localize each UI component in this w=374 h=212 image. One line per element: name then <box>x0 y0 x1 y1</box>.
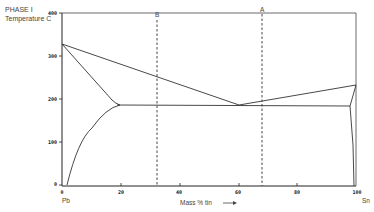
solvus-sn-side <box>350 106 354 186</box>
x-tick-20: 20 <box>118 189 124 195</box>
label-b: B <box>155 11 159 18</box>
label-a: A <box>260 6 265 13</box>
eutectic-line <box>117 105 350 106</box>
y-ticks: 400 300 200 100 0 <box>48 10 62 187</box>
pb-label: Pb <box>62 197 70 204</box>
x-tick-100: 100 <box>352 189 361 195</box>
y-tick-400: 400 <box>48 10 57 16</box>
liquidus-pb-side <box>62 44 239 105</box>
solidus-pb-side <box>62 44 120 105</box>
phase-diagram: 400 300 200 100 0 0 20 40 60 80 100 Pb S… <box>0 0 374 212</box>
y-tick-300: 300 <box>48 53 57 59</box>
solidus-sn-side <box>350 85 356 106</box>
x-tick-80: 80 <box>294 189 300 195</box>
sn-label: Sn <box>362 197 370 204</box>
x-axis-label: Mass % tin <box>180 199 212 206</box>
solvus-pb-side <box>67 105 120 185</box>
liquidus-sn-side <box>239 85 356 105</box>
x-tick-40: 40 <box>176 189 182 195</box>
x-ticks: 0 20 40 60 80 100 <box>60 183 361 195</box>
y-tick-100: 100 <box>48 139 57 145</box>
x-tick-60: 60 <box>235 189 241 195</box>
y-tick-0: 0 <box>54 181 57 187</box>
arrow-right-icon <box>223 201 237 205</box>
y-tick-200: 200 <box>48 96 57 102</box>
x-tick-0: 0 <box>60 189 63 195</box>
